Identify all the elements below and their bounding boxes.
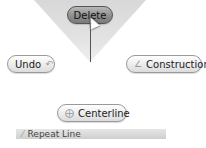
undo-label: Undo [15,59,41,70]
undo-button[interactable]: Undo ↶ [7,55,55,73]
construction-label: Construction [146,59,206,70]
line-icon: ⁄ [22,130,24,139]
repeat-line-label: Repeat Line [28,129,81,139]
construction-button[interactable]: ∠ Construction [126,55,202,73]
centerline-label: Centerline [78,108,130,119]
centerline-button[interactable]: ⨁ Centerline [57,104,127,122]
construction-line-icon: ∠ [134,60,142,69]
undo-arrow-icon: ↶ [45,60,53,69]
centerline-icon: ⨁ [65,109,74,118]
repeat-line-item[interactable]: ⁄ Repeat Line [16,129,166,139]
